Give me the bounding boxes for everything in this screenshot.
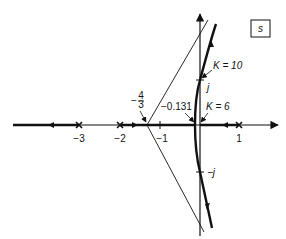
svg-text:−: − — [131, 95, 137, 106]
s-plane-label-box: s — [251, 20, 270, 37]
svg-text:3: 3 — [138, 99, 144, 110]
imag-tick-label: −j — [207, 167, 216, 178]
k-breakaway-label: K = 6 — [206, 101, 230, 112]
breakaway-label: −0.131 — [161, 101, 192, 112]
k-breakaway-pointer — [201, 113, 208, 122]
breakaway-pointer — [185, 113, 194, 122]
imag-tick-label: j — [205, 82, 210, 93]
tick-label: −1 — [156, 133, 168, 144]
direction-arrow-icon — [132, 122, 138, 128]
tick-label: −2 — [114, 133, 126, 144]
centroid-pointer — [140, 111, 146, 122]
root-locus-diagram: s −3 −2 −1 1 j −j − 4 3 −0.131 — [0, 0, 286, 239]
s-plane-label: s — [258, 23, 263, 34]
direction-arrow-icon — [222, 122, 228, 128]
centroid-label: − 4 3 — [131, 90, 144, 110]
tick-label: 1 — [236, 133, 242, 144]
direction-arrow-icon — [48, 122, 54, 128]
tick-label: −3 — [73, 133, 85, 144]
k-crossing-label: K = 10 — [213, 60, 243, 71]
